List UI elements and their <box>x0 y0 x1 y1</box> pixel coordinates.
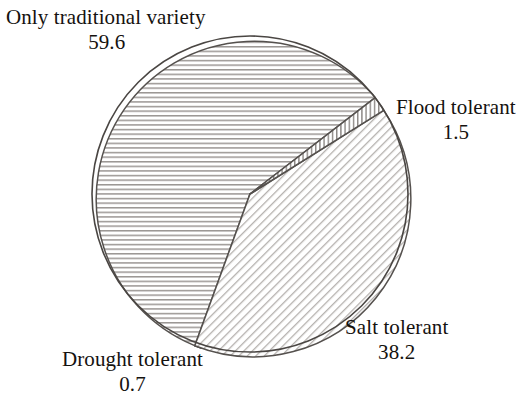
pie-label-salt-tolerant-value: 38.2 <box>345 341 448 365</box>
pie-chart-figure: Only traditional variety 59.6 Flood tole… <box>0 0 531 417</box>
pie-label-only-traditional-variety-value: 59.6 <box>6 31 206 55</box>
pie-label-flood-tolerant-value: 1.5 <box>396 121 516 145</box>
pie-label-only-traditional-variety: Only traditional variety 59.6 <box>6 6 206 54</box>
pie-label-drought-tolerant: Drought tolerant 0.7 <box>62 348 203 396</box>
pie-label-salt-tolerant: Salt tolerant 38.2 <box>345 316 448 364</box>
pie-label-flood-tolerant-text: Flood tolerant <box>396 96 516 120</box>
pie-label-only-traditional-variety-text: Only traditional variety <box>6 6 206 30</box>
pie-label-drought-tolerant-value: 0.7 <box>62 373 203 397</box>
pie-label-flood-tolerant: Flood tolerant 1.5 <box>396 96 516 144</box>
pie-slices <box>92 36 411 357</box>
pie-label-drought-tolerant-text: Drought tolerant <box>62 348 203 372</box>
pie-label-salt-tolerant-text: Salt tolerant <box>345 316 448 340</box>
